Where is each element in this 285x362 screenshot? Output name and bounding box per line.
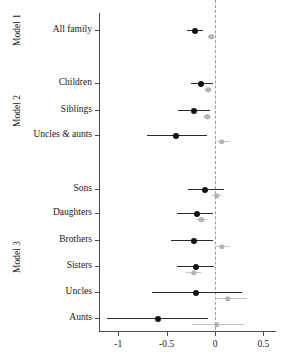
- secondary-point: [199, 217, 205, 223]
- primary-point: [192, 28, 198, 34]
- x-tick: [118, 332, 119, 336]
- y-axis-line: [99, 13, 100, 331]
- row-label-aunts: Aunts: [69, 313, 92, 323]
- y-tick: [95, 266, 100, 267]
- forest-plot: -1-0.500.5All familyChildrenSiblingsUncl…: [0, 0, 285, 362]
- x-tick-label: -0.5: [159, 339, 174, 349]
- x-tick: [215, 332, 216, 336]
- row-label-uncles: Uncles: [66, 287, 92, 297]
- row-label-all-family: All family: [53, 25, 92, 35]
- x-axis-line: [99, 331, 276, 332]
- primary-point: [193, 264, 199, 270]
- x-tick-label: -1: [114, 339, 122, 349]
- row-label-uncles-aunts: Uncles & aunts: [33, 130, 92, 140]
- x-tick: [167, 332, 168, 336]
- secondary-point: [191, 270, 197, 276]
- x-tick-label: 0.5: [257, 339, 269, 349]
- zero-reference-line: [215, 0, 216, 330]
- primary-point: [202, 187, 208, 193]
- y-tick: [95, 30, 100, 31]
- row-label-sisters: Sisters: [67, 261, 92, 271]
- secondary-point: [205, 114, 211, 120]
- secondary-point: [219, 244, 225, 250]
- y-tick: [95, 213, 100, 214]
- secondary-point: [214, 322, 220, 328]
- row-label-brothers: Brothers: [59, 235, 92, 245]
- secondary-point: [208, 34, 214, 40]
- secondary-point: [225, 296, 231, 302]
- primary-point: [193, 290, 199, 296]
- secondary-point: [219, 139, 225, 145]
- primary-point: [191, 238, 197, 244]
- y-tick: [95, 189, 100, 190]
- primary-point: [198, 81, 204, 87]
- y-tick: [95, 240, 100, 241]
- y-tick: [95, 135, 100, 136]
- row-label-siblings: Siblings: [61, 105, 92, 115]
- primary-point: [155, 316, 161, 322]
- y-tick: [95, 110, 100, 111]
- secondary-point: [205, 87, 211, 93]
- secondary-point: [214, 193, 220, 199]
- y-tick: [95, 292, 100, 293]
- x-tick: [263, 332, 264, 336]
- primary-point: [191, 108, 197, 114]
- y-tick: [95, 318, 100, 319]
- row-label-daughters: Daughters: [53, 208, 92, 218]
- group-label-model-1: Model 1: [13, 14, 23, 46]
- x-tick-label: 0: [213, 339, 218, 349]
- primary-point: [194, 211, 200, 217]
- group-label-model-3: Model 3: [13, 241, 23, 273]
- group-label-model-2: Model 2: [13, 95, 23, 127]
- secondary-ci: [215, 298, 247, 299]
- row-label-children: Children: [59, 78, 92, 88]
- row-label-sons: Sons: [74, 184, 92, 194]
- y-tick: [95, 83, 100, 84]
- primary-point: [173, 133, 179, 139]
